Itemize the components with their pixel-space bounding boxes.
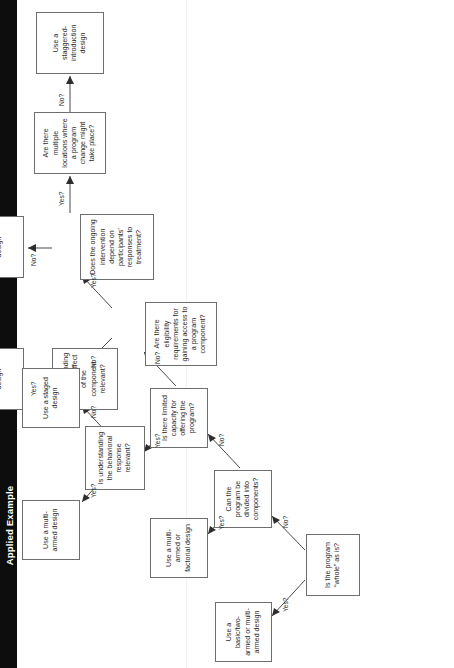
node-a2-label: Use a multi-armed or factorial design xyxy=(165,522,193,574)
edge-label-q3-no: No? xyxy=(154,352,161,364)
node-a5[interactable]: Use a staged design xyxy=(22,368,80,428)
edge-label-q7-yes: No? xyxy=(30,254,37,266)
node-a4-label: Use a staged design xyxy=(0,352,4,406)
node-a3-label: Use a multi-armed design xyxy=(42,504,60,556)
node-q7-label: Does the ongoing intervention depend on … xyxy=(89,218,144,276)
node-a6-label: Use a staged design xyxy=(0,220,4,274)
node-q6-label: Are there eligibility requirements for g… xyxy=(153,306,208,362)
node-a5-label: Use a staged design xyxy=(42,372,60,424)
edge-label-q6-yes: No? xyxy=(90,356,97,368)
node-a1[interactable]: Use a basic/two-armed or multi-armed des… xyxy=(215,602,272,662)
node-a7-label: Use a staggered-introduction design xyxy=(52,16,89,70)
node-q3-label: Is there limited capacity for offering t… xyxy=(161,392,198,444)
edge-label-q8-yes: No? xyxy=(58,94,65,106)
flowchart-canvas: Is the program “whole” as is? Use a basi… xyxy=(0,0,454,668)
edge-label-q1-no: No? xyxy=(282,516,289,528)
node-a7[interactable]: Use a staggered-introduction design xyxy=(36,12,104,74)
node-q7[interactable]: Does the ongoing intervention depend on … xyxy=(80,214,154,280)
node-q8[interactable]: Are there multiple locations where a pro… xyxy=(34,112,106,174)
node-a6[interactable]: Use a staged design xyxy=(0,216,24,278)
edge-label-q6-no: Yes? xyxy=(90,274,97,288)
edge-label-q5-yes: Yes? xyxy=(30,382,37,396)
edge-label-q2-yes: Yes? xyxy=(218,516,225,530)
node-q4-label: Is understanding the behavioral response… xyxy=(97,430,134,486)
node-a2[interactable]: Use a multi-armed or factorial design xyxy=(150,518,208,578)
edge-label-q3-yes: Yes? xyxy=(154,434,161,448)
connector-layer xyxy=(0,0,454,668)
node-q1[interactable]: Is the program “whole” as is? xyxy=(306,534,360,596)
edge-label-q4-yes: Yes? xyxy=(90,484,97,498)
edge-label-q7-no: Yes? xyxy=(58,192,65,206)
node-q8-label: Are there multiple locations where a pro… xyxy=(42,116,97,170)
edge-label-q1-yes: Yes? xyxy=(282,598,289,612)
node-q4[interactable]: Is understanding the behavioral response… xyxy=(85,426,145,490)
node-a4[interactable]: Use a staged design xyxy=(0,348,24,410)
edge-label-q4-no: No? xyxy=(90,406,97,418)
node-a3[interactable]: Use a multi-armed design xyxy=(22,500,80,560)
node-q1-label: Is the program “whole” as is? xyxy=(324,538,342,592)
edge-label-q2-no: No? xyxy=(218,434,225,446)
node-q2-label: Can the program be divided into componen… xyxy=(225,474,262,524)
node-a1-label: Use a basic/two-armed or multi-armed des… xyxy=(225,606,262,658)
